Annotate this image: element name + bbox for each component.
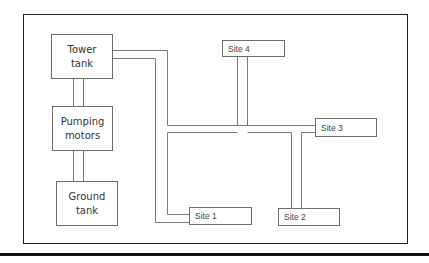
tower-tank-node: Tower tank [51,34,113,79]
pipe-main-upper [113,51,315,126]
bottom-rule [0,253,429,256]
site1-node: Site 1 [189,207,252,225]
pipe-main-outer [113,59,189,223]
site3-node: Site 3 [315,118,377,137]
pumping-motors-node: Pumping motors [52,106,113,151]
ground-tank-node: Ground tank [56,181,118,226]
site2-node: Site 2 [278,208,340,226]
site4-node: Site 4 [222,40,285,57]
pipe-site1-inner [168,133,190,215]
